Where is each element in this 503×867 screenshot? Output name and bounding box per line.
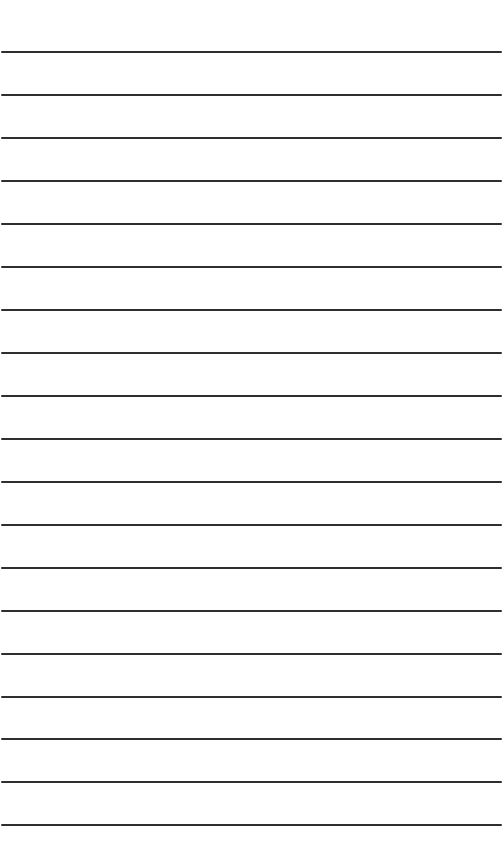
- ruled-line: [1, 781, 502, 783]
- ruled-line: [1, 738, 502, 740]
- ruled-line: [1, 51, 502, 53]
- ruled-line: [1, 824, 502, 826]
- ruled-line: [1, 223, 502, 225]
- ruled-line: [1, 395, 502, 397]
- ruled-line: [1, 524, 502, 526]
- ruled-line: [1, 438, 502, 440]
- ruled-line: [1, 696, 502, 698]
- ruled-line: [1, 610, 502, 612]
- ruled-line: [1, 352, 502, 354]
- lined-paper-sheet: [0, 0, 503, 867]
- ruled-line: [1, 481, 502, 483]
- ruled-line: [1, 266, 502, 268]
- ruled-line: [1, 309, 502, 311]
- ruled-line: [1, 94, 502, 96]
- ruled-line: [1, 137, 502, 139]
- ruled-line: [1, 653, 502, 655]
- ruled-line: [1, 567, 502, 569]
- ruled-line: [1, 180, 502, 182]
